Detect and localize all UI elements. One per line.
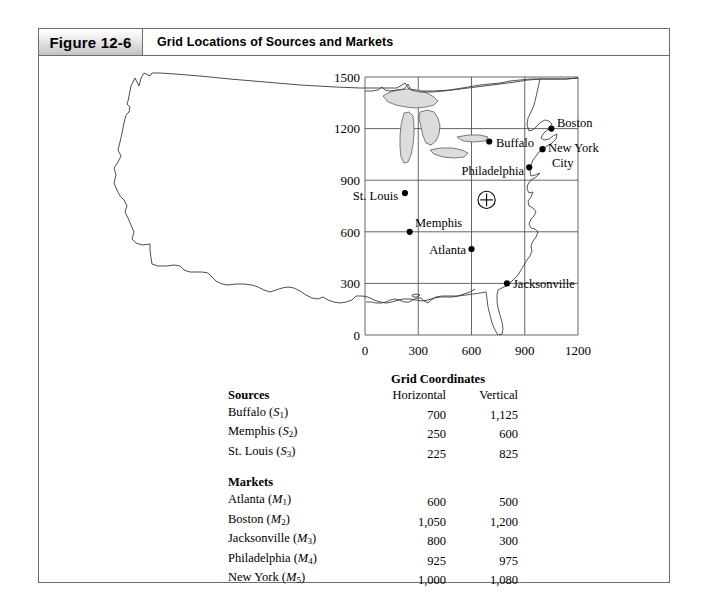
marker-jacksonville bbox=[504, 280, 510, 286]
ytick-300: 300 bbox=[341, 276, 361, 291]
row-label-cell: Atlanta (M1) bbox=[228, 492, 358, 512]
row-label-cell: Buffalo (S1) bbox=[228, 404, 358, 424]
row-symbol-index: 1 bbox=[280, 410, 285, 420]
marker-atlanta bbox=[468, 246, 474, 252]
row-horizontal: 250 bbox=[358, 424, 446, 444]
row-symbol-letter: M bbox=[298, 551, 308, 565]
row-symbol-letter: M bbox=[297, 531, 307, 545]
label-memphis: Memphis bbox=[415, 216, 462, 230]
markets-group-header-row: Markets bbox=[228, 475, 518, 492]
marker-memphis bbox=[407, 229, 413, 235]
row-label-cell: Memphis (S2) bbox=[228, 424, 358, 444]
xtick-0: 0 bbox=[362, 343, 369, 358]
row-symbol-letter: M bbox=[272, 492, 282, 506]
markets-group-header: Markets bbox=[228, 475, 358, 492]
figure-page: Figure 12-6 Grid Locations of Sources an… bbox=[0, 0, 708, 609]
city-labels: Buffalo Boston New York City Philadelphi… bbox=[353, 116, 600, 291]
table-row: Atlanta (M1) 600 500 bbox=[228, 492, 518, 512]
row-horizontal: 925 bbox=[358, 550, 446, 570]
row-horizontal: 600 bbox=[358, 492, 446, 512]
label-jacksonville: Jacksonville bbox=[513, 277, 575, 291]
marker-new-york bbox=[539, 146, 545, 152]
table-column-header-row: Sources Horizontal Vertical bbox=[228, 388, 518, 405]
row-symbol-index: 4 bbox=[308, 556, 313, 566]
row-horizontal: 225 bbox=[358, 443, 446, 463]
table-row: Buffalo (S1) 700 1,125 bbox=[228, 404, 518, 424]
label-philadelphia: Philadelphia bbox=[462, 164, 525, 178]
xtick-900: 900 bbox=[515, 343, 535, 358]
marker-buffalo bbox=[486, 138, 492, 144]
row-city-name: Memphis bbox=[228, 424, 275, 438]
table-row: St. Louis (S3) 225 825 bbox=[228, 443, 518, 463]
row-horizontal: 1,050 bbox=[358, 511, 446, 531]
usa-grid-map-svg: 1500 1200 900 600 300 0 0 300 600 900 12… bbox=[0, 0, 708, 380]
row-city-name: St. Louis bbox=[228, 444, 273, 458]
row-symbol-index: 2 bbox=[281, 517, 286, 527]
row-vertical: 1,200 bbox=[446, 511, 518, 531]
row-label-cell: Jacksonville (M3) bbox=[228, 531, 358, 551]
grid-coordinates-table: Grid Coordinates Sources Horizontal Vert… bbox=[228, 371, 518, 590]
row-label-cell: New York (M5) bbox=[228, 570, 358, 590]
xtick-600: 600 bbox=[462, 343, 482, 358]
span-header-grid-coordinates: Grid Coordinates bbox=[358, 371, 518, 388]
label-atlanta: Atlanta bbox=[429, 243, 466, 257]
row-symbol-index: 3 bbox=[287, 449, 292, 459]
row-label-cell: Boston (M2) bbox=[228, 511, 358, 531]
usa-outline bbox=[114, 73, 578, 303]
xtick-300: 300 bbox=[409, 343, 429, 358]
crosshair-marker-icon bbox=[478, 191, 495, 208]
ytick-900: 900 bbox=[341, 173, 361, 188]
row-city-name: Boston bbox=[228, 512, 263, 526]
ytick-1200: 1200 bbox=[334, 121, 360, 136]
table-row: Philadelphia (M4) 925 975 bbox=[228, 550, 518, 570]
row-symbol-index: 1 bbox=[283, 497, 288, 507]
xtick-1200: 1200 bbox=[565, 343, 591, 358]
row-city-name: Buffalo bbox=[228, 405, 266, 419]
great-lakes bbox=[383, 89, 488, 163]
row-city-name: Jacksonville bbox=[228, 531, 290, 545]
row-symbol-letter: M bbox=[271, 512, 281, 526]
grid-lines bbox=[365, 77, 578, 335]
label-new-york-city2: City bbox=[552, 156, 574, 170]
marker-boston bbox=[548, 126, 554, 132]
table-span-header-row: Grid Coordinates bbox=[228, 371, 518, 388]
table-spacer-row bbox=[228, 463, 518, 475]
label-boston: Boston bbox=[557, 116, 593, 130]
row-symbol-index: 5 bbox=[296, 575, 301, 585]
row-horizontal: 1,000 bbox=[358, 570, 446, 590]
row-city-name: New York bbox=[228, 570, 279, 584]
map-chart: 1500 1200 900 600 300 0 0 300 600 900 12… bbox=[0, 0, 708, 380]
row-vertical: 1,080 bbox=[446, 570, 518, 590]
row-vertical: 300 bbox=[446, 531, 518, 551]
label-new-york: New York bbox=[548, 141, 599, 155]
row-city-name: Philadelphia bbox=[228, 551, 291, 565]
row-symbol-letter: M bbox=[286, 570, 296, 584]
table-row: Jacksonville (M3) 800 300 bbox=[228, 531, 518, 551]
row-city-name: Atlanta bbox=[228, 492, 265, 506]
marker-st-louis bbox=[402, 190, 408, 196]
table-row: New York (M5) 1,000 1,080 bbox=[228, 570, 518, 590]
row-label-cell: Philadelphia (M4) bbox=[228, 550, 358, 570]
row-horizontal: 700 bbox=[358, 404, 446, 424]
row-symbol-index: 3 bbox=[308, 536, 313, 546]
row-vertical: 975 bbox=[446, 550, 518, 570]
row-label-cell: St. Louis (S3) bbox=[228, 443, 358, 463]
ytick-0: 0 bbox=[354, 328, 361, 343]
table-row: Memphis (S2) 250 600 bbox=[228, 424, 518, 444]
sources-group-header: Sources bbox=[228, 388, 358, 405]
label-st-louis: St. Louis bbox=[353, 189, 398, 203]
ytick-1500: 1500 bbox=[334, 70, 360, 85]
axis-labels: 1500 1200 900 600 300 0 0 300 600 900 12… bbox=[334, 70, 591, 358]
row-vertical: 500 bbox=[446, 492, 518, 512]
col-header-horizontal: Horizontal bbox=[358, 388, 446, 405]
row-horizontal: 800 bbox=[358, 531, 446, 551]
table-row: Boston (M2) 1,050 1,200 bbox=[228, 511, 518, 531]
row-vertical: 1,125 bbox=[446, 404, 518, 424]
marker-philadelphia bbox=[526, 164, 532, 170]
col-header-vertical: Vertical bbox=[446, 388, 518, 405]
row-symbol-index: 2 bbox=[289, 429, 294, 439]
label-buffalo: Buffalo bbox=[496, 136, 534, 150]
row-vertical: 600 bbox=[446, 424, 518, 444]
ytick-600: 600 bbox=[341, 225, 361, 240]
row-vertical: 825 bbox=[446, 443, 518, 463]
